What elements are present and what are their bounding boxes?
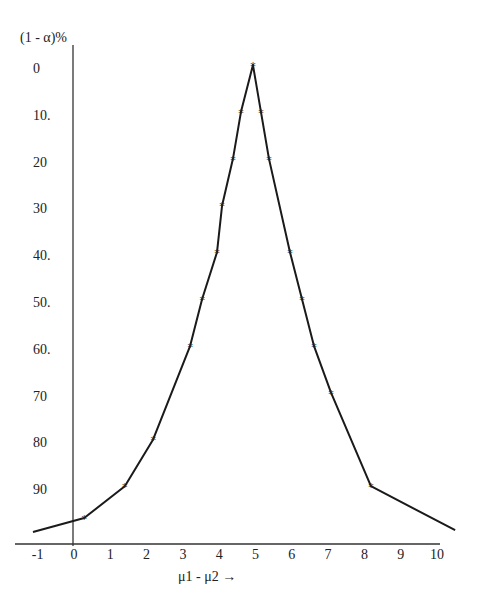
x-tick-label: 7 <box>325 547 332 562</box>
asterisk-marker-icon: * <box>266 154 272 167</box>
x-tick-label: 4 <box>216 547 223 562</box>
asterisk-marker-icon: * <box>328 388 334 401</box>
asterisk-marker-icon: * <box>299 294 305 307</box>
asterisk-marker-icon: * <box>199 294 205 307</box>
asterisk-marker-icon: * <box>230 154 236 167</box>
series-line <box>33 65 455 532</box>
data-series: ***************** <box>33 60 455 532</box>
asterisk-marker-icon: * <box>214 247 220 260</box>
asterisk-marker-icon: * <box>122 481 128 494</box>
y-tick-label: 10. <box>33 108 51 123</box>
asterisk-marker-icon: * <box>287 247 293 260</box>
y-tick-label: 30 <box>33 201 47 216</box>
x-tick-label: 6 <box>288 547 295 562</box>
asterisk-marker-icon: * <box>368 481 374 494</box>
y-tick-label: 60. <box>33 342 51 357</box>
x-tick-label: 5 <box>252 547 259 562</box>
asterisk-marker-icon: * <box>258 107 264 120</box>
axes <box>15 45 440 546</box>
y-tick-label: 80 <box>33 435 47 450</box>
asterisk-marker-icon: * <box>238 107 244 120</box>
y-tick-label: 50. <box>33 295 51 310</box>
x-tick-label: 10 <box>430 547 444 562</box>
asterisk-marker-icon: * <box>187 341 193 354</box>
x-tick-label: -1 <box>32 547 44 562</box>
x-tick-label: 2 <box>143 547 150 562</box>
asterisk-marker-icon: * <box>81 513 87 526</box>
x-tick-label: 3 <box>179 547 186 562</box>
x-tick-label: 9 <box>397 547 404 562</box>
y-tick-label: 90 <box>33 482 47 497</box>
x-axis-title: μ1 - μ2 → <box>178 569 236 584</box>
y-tick-label: 0 <box>33 61 40 76</box>
x-tick-label: 1 <box>107 547 114 562</box>
y-tick-label: 70 <box>33 389 47 404</box>
y-tick-labels: 010.203040.50.60.708090 <box>33 61 51 497</box>
y-tick-label: 40. <box>33 248 51 263</box>
y-tick-label: 20 <box>33 155 47 170</box>
asterisk-marker-icon: * <box>250 60 256 73</box>
x-tick-label: 8 <box>361 547 368 562</box>
asterisk-marker-icon: * <box>311 341 317 354</box>
asterisk-marker-icon: * <box>219 200 225 213</box>
y-axis-title: (1 - α)% <box>20 30 67 46</box>
asterisk-marker-icon: * <box>150 434 156 447</box>
confidence-curve-chart: (1 - α)% μ1 - μ2 → -1012345678910 010.20… <box>0 0 478 599</box>
x-tick-label: 0 <box>71 547 78 562</box>
x-tick-labels: -1012345678910 <box>32 547 444 562</box>
